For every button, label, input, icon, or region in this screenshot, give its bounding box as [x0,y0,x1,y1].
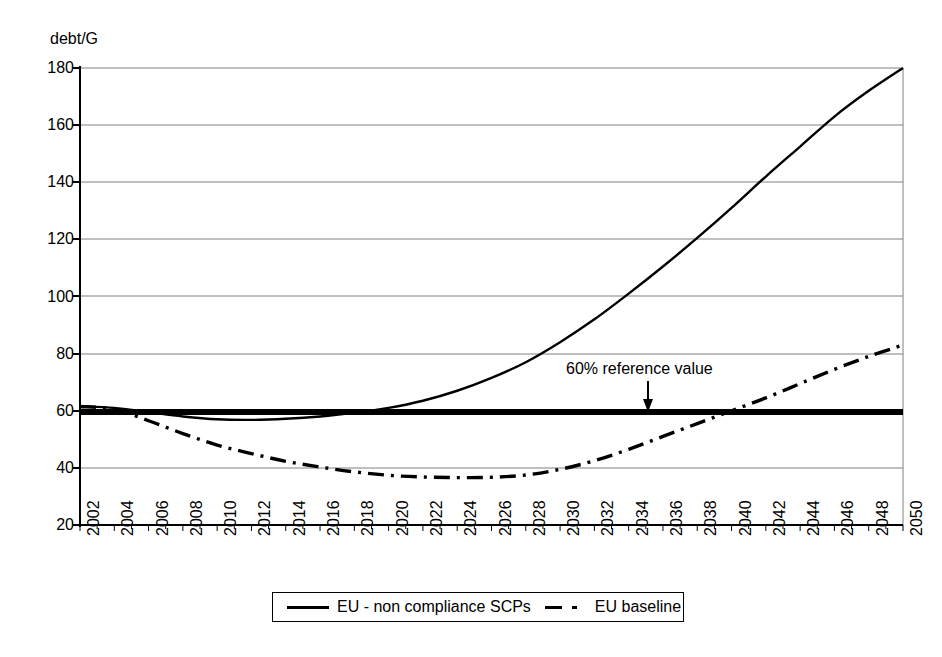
x-axis-tick-label: 2042 [772,500,788,536]
x-axis-tick-label: 2038 [703,500,719,536]
x-axis-tick-label: 2044 [806,500,822,536]
x-axis-tick-label: 2004 [120,500,136,536]
x-axis-tick-label: 2034 [635,500,651,536]
chart-legend: EU - non compliance SCPs EU baseline [272,592,684,622]
debt-to-gdp-projection-chart: debt/G [0,0,942,657]
x-axis-tick-label: 2008 [189,500,205,536]
x-axis-tick-label: 2014 [292,500,308,536]
legend-item-eu-non-compliance: EU - non compliance SCPs [287,599,531,615]
legend-label-eu-baseline: EU baseline [595,599,681,615]
x-axis-tick-labels: 2002200420062008201020122014201620182020… [0,0,942,657]
legend-item-eu-baseline: EU baseline [545,599,681,615]
x-axis-tick-label: 2006 [155,500,171,536]
solid-line-key-icon [287,600,329,614]
x-axis-tick-label: 2022 [429,500,445,536]
x-axis-tick-label: 2048 [875,500,891,536]
x-axis-tick-label: 2028 [532,500,548,536]
dashdot-line-key-icon [545,600,587,614]
x-axis-tick-label: 2012 [257,500,273,536]
x-axis-tick-label: 2030 [566,500,582,536]
x-axis-tick-label: 2002 [86,500,102,536]
x-axis-tick-label: 2032 [600,500,616,536]
x-axis-tick-label: 2010 [223,500,239,536]
x-axis-tick-label: 2016 [326,500,342,536]
legend-label-eu-non-compliance: EU - non compliance SCPs [337,599,531,615]
x-axis-tick-label: 2026 [498,500,514,536]
x-axis-tick-label: 2046 [840,500,856,536]
x-axis-tick-label: 2020 [395,500,411,536]
x-axis-tick-label: 2036 [669,500,685,536]
x-axis-tick-label: 2040 [738,500,754,536]
x-axis-tick-label: 2024 [463,500,479,536]
x-axis-tick-label: 2050 [909,500,925,536]
x-axis-tick-label: 2018 [360,500,376,536]
